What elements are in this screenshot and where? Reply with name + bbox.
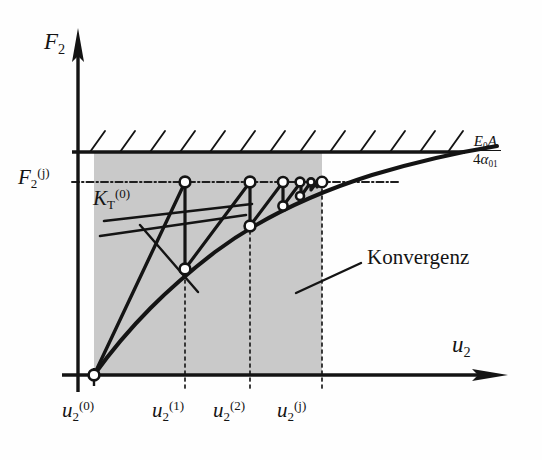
- marker-point: [296, 178, 305, 187]
- marker-point: [296, 192, 304, 200]
- marker-point: [180, 177, 191, 188]
- marker-point: [278, 177, 288, 187]
- marker-origin: [89, 370, 100, 381]
- x-axis-label: u2: [452, 333, 471, 356]
- asymptote-denominator: 4α01: [470, 151, 501, 167]
- asymptote-fraction: E0A 4α01: [470, 134, 501, 167]
- x-axis-label-base: u: [452, 332, 464, 357]
- load-level-label: F2(j): [18, 167, 50, 188]
- convergence-diagram: F2 u2 F2(j) KT(0) Konvergenz E0A 4α01 u2…: [0, 0, 542, 460]
- x-tick-label-uj: u2(j): [277, 400, 306, 421]
- marker-point: [307, 178, 314, 185]
- x-tick-label-u0: u2(0): [62, 400, 94, 421]
- marker-point: [278, 201, 287, 210]
- convergence-label: Konvergenz: [367, 247, 469, 268]
- x-axis-label-sub: 2: [464, 344, 471, 360]
- marker-point: [245, 177, 256, 188]
- x-tick-label-u2i: u2(2): [213, 400, 245, 421]
- marker-point: [180, 264, 191, 275]
- y-axis-label: F2: [44, 30, 65, 53]
- hatch-marks: [90, 131, 463, 152]
- marker-point: [245, 221, 256, 232]
- asymptote-numerator: E0A: [470, 134, 501, 151]
- tangent-stiffness-label: KT(0): [93, 188, 130, 209]
- asymptote-label: E0A 4α01: [470, 134, 501, 167]
- diagram-canvas: [0, 0, 542, 460]
- y-axis-label-base: F: [44, 29, 58, 54]
- x-tick-label-u1: u2(1): [152, 400, 184, 421]
- y-axis-label-sub: 2: [58, 41, 65, 57]
- marker-point: [317, 177, 327, 187]
